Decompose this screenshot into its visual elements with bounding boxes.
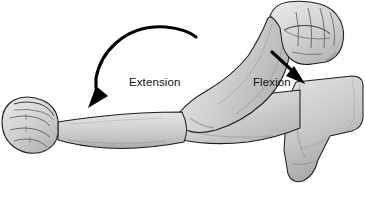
flexion-label: Flexion (253, 77, 291, 89)
extension-arrow (88, 27, 196, 108)
arm-illustration (0, 0, 365, 197)
extended-fist-group (2, 97, 58, 153)
extended-forearm-group (58, 112, 187, 148)
extension-label: Extension (129, 77, 180, 89)
anatomy-figure: Extension Flexion (0, 0, 365, 197)
